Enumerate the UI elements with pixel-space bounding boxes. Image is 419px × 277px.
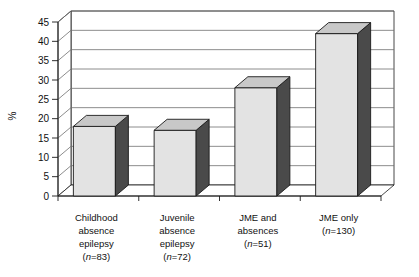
chart-canvas: 051015202530354045%Childhoodabsenceepile… <box>0 0 419 277</box>
category-label-0-line-1: absence <box>78 225 114 236</box>
category-label-2-line-0: JME and <box>239 212 277 223</box>
category-label-1-line-0: Juvenile <box>160 212 195 223</box>
bar-side-face-2 <box>277 77 290 196</box>
bar-front-face-2 <box>235 88 277 196</box>
y-tick-label-0: 0 <box>43 191 49 202</box>
category-label-1-line-2: epilepsy <box>160 238 195 249</box>
category-label-1-line-1: absence <box>159 225 195 236</box>
category-label-2-line-1: absences <box>238 225 279 236</box>
category-label-0-line-0: Childhood <box>75 212 118 223</box>
y-tick-label-30: 30 <box>38 75 50 86</box>
category-n-0: (n=83) <box>83 251 111 262</box>
plot-left-wall <box>58 11 71 196</box>
y-tick-label-10: 10 <box>38 152 50 163</box>
y-tick-label-35: 35 <box>38 55 50 66</box>
bar-chart: 051015202530354045%Childhoodabsenceepile… <box>0 0 419 277</box>
y-tick-label-20: 20 <box>38 113 50 124</box>
bar-group-3 <box>316 23 371 196</box>
bar-front-face-0 <box>73 126 115 196</box>
y-tick-label-15: 15 <box>38 133 50 144</box>
y-tick-label-5: 5 <box>43 171 49 182</box>
category-label-3-line-0: JME only <box>319 212 358 223</box>
bar-side-face-0 <box>115 115 128 196</box>
bar-group-1 <box>154 119 209 196</box>
y-axis-title: % <box>7 111 18 120</box>
category-n-1: (n=72) <box>163 251 191 262</box>
bar-side-face-1 <box>196 119 209 196</box>
bar-front-face-1 <box>154 130 196 196</box>
y-tick-label-45: 45 <box>38 17 50 28</box>
bar-group-2 <box>235 77 290 196</box>
y-tick-label-40: 40 <box>38 36 50 47</box>
bar-side-face-3 <box>358 23 371 196</box>
category-n-3: (n=130) <box>322 225 355 236</box>
bar-front-face-3 <box>316 34 358 196</box>
category-label-0-line-2: epilepsy <box>79 238 114 249</box>
category-n-2: (n=51) <box>244 238 272 249</box>
y-tick-label-25: 25 <box>38 94 50 105</box>
bar-group-0 <box>73 115 128 196</box>
